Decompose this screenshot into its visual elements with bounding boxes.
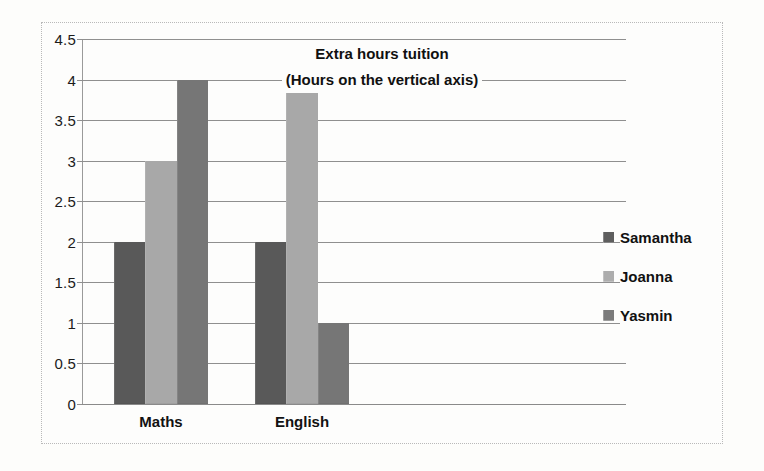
y-tick-mark [77, 242, 82, 243]
gridline [82, 80, 626, 81]
bar-joanna-maths [145, 161, 176, 404]
y-tick-label: 1 [36, 314, 76, 331]
legend-swatch-icon [603, 310, 614, 321]
y-tick-label: 2 [36, 233, 76, 250]
chart-frame: 00.511.522.533.544.5 Extra hours tuition… [41, 22, 723, 444]
y-tick-label: 3.5 [36, 112, 76, 129]
legend-item-label: Samantha [620, 229, 695, 246]
bar-samantha-maths [114, 242, 145, 404]
y-tick-label: 2.5 [36, 193, 76, 210]
y-tick-mark [77, 201, 82, 202]
legend-item-joanna[interactable]: Joanna [603, 257, 723, 296]
y-tick-mark [77, 323, 82, 324]
gridline [82, 120, 626, 121]
y-tick-mark [77, 161, 82, 162]
gridline [82, 404, 626, 405]
bar-samantha-english [255, 242, 286, 404]
plot-area [82, 39, 626, 404]
y-tick-label: 3 [36, 152, 76, 169]
legend-item-label: Joanna [620, 268, 676, 285]
y-tick-mark [77, 404, 82, 405]
y-axis-labels: 00.511.522.533.544.5 [34, 39, 76, 404]
legend-item-label: Yasmin [620, 307, 676, 324]
y-tick-label: 4.5 [36, 31, 76, 48]
legend-swatch-icon [603, 232, 614, 243]
bar-yasmin-maths [177, 80, 208, 404]
x-tick-label: English [275, 413, 329, 430]
y-tick-mark [77, 363, 82, 364]
y-tick-mark [77, 120, 82, 121]
chart-legend: SamanthaJoannaYasmin [603, 218, 723, 335]
legend-item-yasmin[interactable]: Yasmin [603, 296, 723, 335]
y-tick-label: 0 [36, 396, 76, 413]
bar-yasmin-english [318, 323, 349, 404]
y-tick-label: 4 [36, 71, 76, 88]
gridline [82, 39, 626, 40]
x-tick-label: Maths [139, 413, 182, 430]
bar-joanna-english [286, 80, 317, 404]
legend-item-samantha[interactable]: Samantha [603, 218, 723, 257]
y-tick-label: 0.5 [36, 355, 76, 372]
y-axis-line [82, 39, 83, 404]
y-tick-label: 1.5 [36, 274, 76, 291]
y-tick-mark [77, 39, 82, 40]
y-tick-mark [77, 282, 82, 283]
legend-swatch-icon [603, 271, 614, 282]
y-tick-mark [77, 80, 82, 81]
